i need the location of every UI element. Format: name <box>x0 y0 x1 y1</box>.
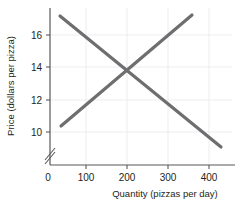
x-tick-label-300: 300 <box>160 172 177 183</box>
chart-canvas: 16 14 12 10 0 100 200 300 400 Price (dol… <box>0 0 241 203</box>
y-tick-label-10: 10 <box>31 127 43 138</box>
supply-demand-chart: 16 14 12 10 0 100 200 300 400 Price (dol… <box>0 0 241 203</box>
x-axis-tick-marks <box>86 165 209 169</box>
y-axis-tick-labels: 16 14 12 10 <box>31 30 43 138</box>
x-tick-label-0: 0 <box>45 172 51 183</box>
x-axis-tick-labels: 0 100 200 300 400 <box>45 172 218 183</box>
y-tick-label-14: 14 <box>31 62 43 73</box>
demand-curve <box>60 16 221 147</box>
x-tick-label-100: 100 <box>78 172 95 183</box>
y-tick-label-16: 16 <box>31 30 43 41</box>
y-axis-title: Price (dollars per pizza) <box>5 36 16 136</box>
y-tick-label-12: 12 <box>31 95 43 106</box>
x-tick-label-200: 200 <box>119 172 136 183</box>
x-axis-title: Quantity (pizzas per day) <box>112 188 218 199</box>
x-tick-label-400: 400 <box>201 172 218 183</box>
